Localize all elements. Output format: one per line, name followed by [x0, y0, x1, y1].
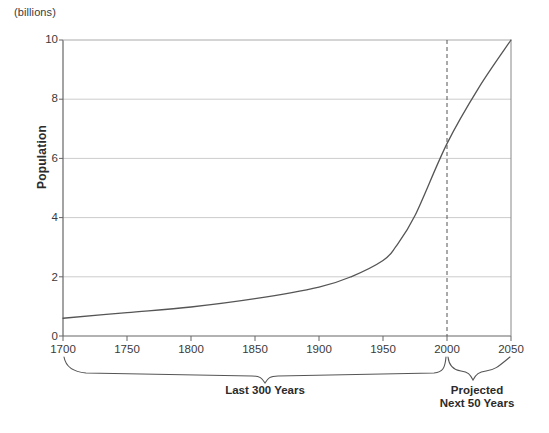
x-axis-ticks [63, 336, 511, 341]
brace-projected [448, 357, 510, 380]
population-curve [63, 237, 383, 318]
brace-label-projected-line1: Projected [431, 384, 523, 397]
population-curve-projection [447, 40, 511, 143]
gridlines [63, 99, 511, 277]
axis-lines [63, 40, 511, 336]
population-growth-chart: (billions) Population 10 8 6 4 2 0 1700 … [0, 0, 549, 433]
chart-canvas [0, 0, 549, 433]
brace-last-300-years [64, 357, 446, 383]
brace-label-projected-line2: Next 50 Years [431, 397, 523, 410]
brace-label-last-300-years: Last 300 Years [205, 384, 325, 397]
